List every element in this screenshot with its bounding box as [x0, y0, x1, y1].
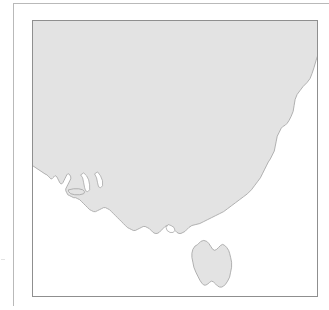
frame-left-tick-mark: [1, 259, 5, 260]
frame-top-rule: [13, 3, 329, 4]
kangaroo-island[interactable]: [69, 189, 85, 195]
map-panel[interactable]: [32, 20, 318, 297]
frame-left-rule: [13, 3, 14, 306]
map-canvas[interactable]: [33, 21, 317, 296]
